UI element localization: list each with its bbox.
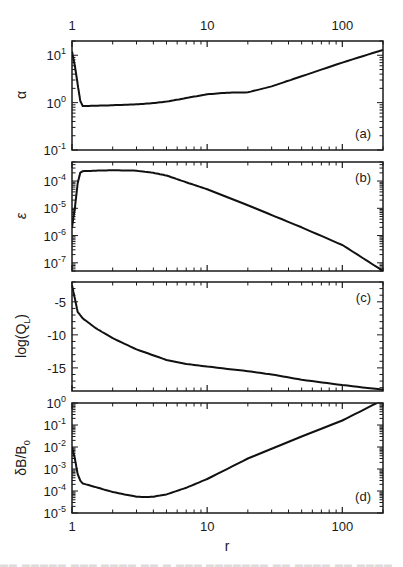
y-tick-label: -5 — [54, 295, 66, 310]
y-tick-label: 10-1 — [44, 141, 66, 158]
data-curve — [72, 403, 377, 497]
y-tick-label: 100 — [47, 394, 66, 411]
plot-frame — [72, 41, 383, 150]
y-tick-label: 10-3 — [44, 460, 66, 477]
panel-label: (c) — [356, 290, 371, 305]
figure-caption-partial: ▂▂ ▂▂▂▂▂ ▂▂▂ ▂▂▂▂ ▂▂ ▂ ▂▂▂ ▂▂▂▂▂▂▂ ▂▂ ▂▂… — [0, 556, 403, 567]
panel-c: -15-10-5log(QL)(c) — [13, 282, 383, 391]
bottom-x-tick-label: 1 — [68, 519, 75, 534]
y-axis-label: log(QL) — [13, 314, 32, 358]
y-tick-label: 10-5 — [44, 199, 66, 216]
plot-frame — [72, 403, 383, 513]
panel-b: 10-710-610-510-4ε(b) — [13, 162, 383, 271]
data-curve — [72, 285, 383, 389]
y-tick-label: 10-1 — [44, 416, 66, 433]
y-axis-label: ε — [13, 212, 29, 219]
y-axis-label: α — [13, 91, 29, 99]
y-tick-label: 10-4 — [44, 482, 66, 499]
figure-canvas: 10-1100101α(a)10-710-610-510-4ε(b)-15-10… — [0, 0, 403, 567]
bottom-x-tick-label: 100 — [331, 519, 353, 534]
panel-a: 10-1100101α(a) — [13, 41, 383, 158]
data-curve — [72, 50, 383, 106]
y-tick-label: 10-2 — [44, 438, 66, 455]
y-tick-label: 101 — [47, 46, 66, 63]
y-tick-label: -15 — [47, 361, 66, 376]
y-tick-label: 10-4 — [44, 172, 66, 189]
x-axis-label: r — [225, 538, 230, 554]
y-tick-label: 100 — [47, 94, 66, 111]
panel-label: (a) — [355, 126, 371, 141]
plot-frame — [72, 282, 383, 391]
panel-label: (d) — [355, 489, 371, 504]
y-tick-label: 10-5 — [44, 504, 66, 521]
panel-label: (b) — [355, 170, 371, 185]
top-x-tick-label: 10 — [200, 18, 214, 33]
y-tick-label: 10-6 — [44, 227, 66, 244]
y-tick-label: 10-7 — [44, 254, 66, 271]
bottom-x-tick-label: 10 — [200, 519, 214, 534]
top-x-tick-label: 100 — [331, 18, 353, 33]
panel-d: 10-510-410-310-210-1100δB/B0(d) — [13, 394, 383, 521]
y-axis-label: δB/B0 — [13, 440, 32, 475]
y-tick-label: -10 — [47, 328, 66, 343]
top-x-tick-label: 1 — [68, 18, 75, 33]
data-curve — [72, 170, 383, 271]
plot-frame — [72, 162, 383, 271]
